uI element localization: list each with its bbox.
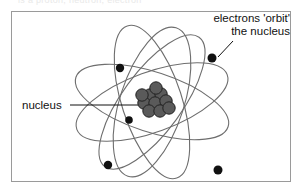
electron-5 [214, 166, 223, 175]
nucleon-8 [163, 102, 175, 114]
electron-3 [125, 116, 133, 124]
electrons-callout-leader-line [218, 41, 233, 57]
electron-2 [208, 54, 217, 63]
nucleon-9 [136, 89, 148, 101]
electrons-callout-line-1: electrons 'orbit' [213, 12, 290, 25]
electrons-callout-line-2: the nucleus [213, 25, 290, 38]
electron-4 [104, 161, 112, 169]
electrons-callout-label: electrons 'orbit' the nucleus [213, 12, 290, 38]
nucleus-callout-line-1: nucleus [22, 99, 62, 111]
page-canvas: is a proton, neutron, electron electrons… [0, 0, 304, 195]
nucleus-callout-label: nucleus [22, 99, 62, 112]
electron-1 [116, 64, 124, 72]
nucleon-10 [150, 82, 162, 94]
nucleus-cluster [136, 82, 175, 117]
